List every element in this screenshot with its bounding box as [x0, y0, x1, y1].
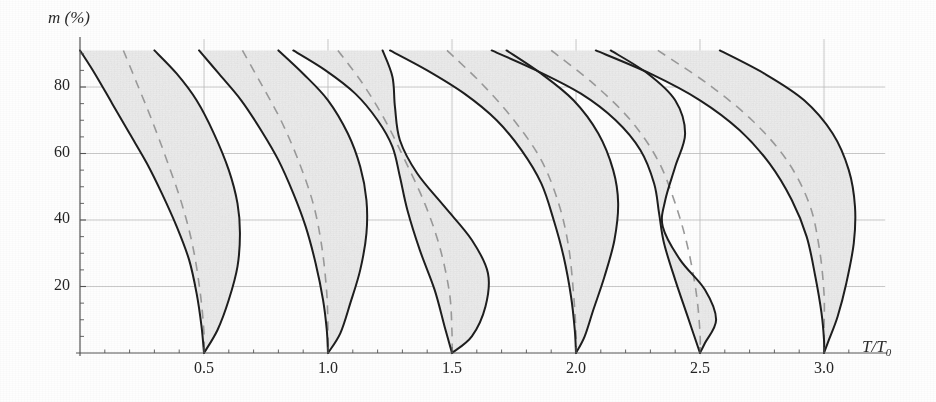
- x-tick-label-3.0: 3.0: [802, 359, 846, 377]
- x-tick-label-2.0: 2.0: [554, 359, 598, 377]
- lobe-fill-0.5: [80, 50, 240, 356]
- x-tick-label-0.5: 0.5: [182, 359, 226, 377]
- x-axis-title-text: T/T0: [862, 337, 891, 356]
- y-tick-label-20: 20: [36, 276, 70, 294]
- x-tick-label-2.5: 2.5: [678, 359, 722, 377]
- chart-canvas: [0, 0, 936, 402]
- figure-container: m (%) T/T0 20406080 0.51.01.52.02.53.0: [0, 0, 936, 402]
- x-tick-label-1.0: 1.0: [306, 359, 350, 377]
- x-axis-title: T/T0: [862, 337, 891, 358]
- y-tick-label-60: 60: [36, 143, 70, 161]
- y-tick-label-40: 40: [36, 209, 70, 227]
- y-axis-title: m (%): [48, 8, 90, 28]
- y-tick-label-80: 80: [36, 76, 70, 94]
- x-tick-label-1.5: 1.5: [430, 359, 474, 377]
